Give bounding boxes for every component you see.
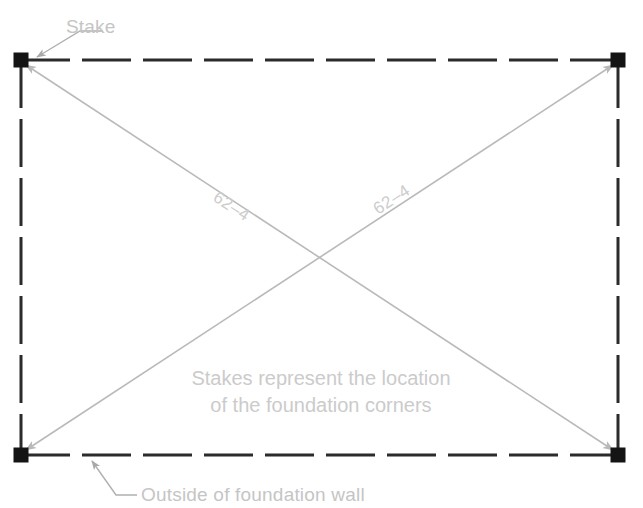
stake-bottom-left bbox=[14, 448, 28, 462]
stake-top-left bbox=[14, 53, 28, 67]
stake-label: Stake bbox=[66, 16, 116, 37]
dimension-label-diagonal-tl-br: 62–4 bbox=[210, 187, 254, 225]
center-note-line-2: of the foundation corners bbox=[210, 394, 431, 416]
wall-callout: Outside of foundation wall bbox=[92, 461, 365, 505]
stake-bottom-right bbox=[611, 448, 625, 462]
wall-leader-line bbox=[92, 461, 137, 495]
foundation-layout-svg: 62–4 62–4 Stakes represent the location … bbox=[0, 0, 643, 508]
dimension-label-diagonal-tr-bl: 62–4 bbox=[370, 181, 414, 219]
stake-top-right bbox=[611, 53, 625, 67]
stake-callout: Stake bbox=[37, 16, 116, 57]
dimension-label-group: 62–4 62–4 bbox=[210, 181, 414, 226]
center-note-line-1: Stakes represent the location bbox=[191, 367, 450, 389]
center-note: Stakes represent the location of the fou… bbox=[191, 367, 450, 416]
diagram-canvas: 62–4 62–4 Stakes represent the location … bbox=[0, 0, 643, 508]
wall-label: Outside of foundation wall bbox=[141, 484, 365, 505]
diagonal-measurements bbox=[26, 65, 613, 450]
